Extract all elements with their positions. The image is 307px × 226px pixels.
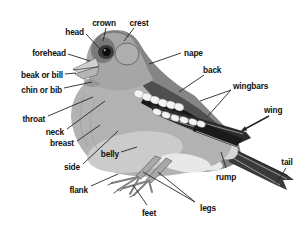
ear-covert-panel [115,43,139,65]
leader-line-nape [149,53,181,64]
bird-illustration [71,30,294,197]
part-label-flank: flank [69,185,88,195]
claw [130,195,134,197]
eye-glint [104,49,106,51]
part-label-chin-or-bib: chin or bib [21,85,62,95]
part-label-beak-or-bill: beak or bill [21,70,63,80]
part-label-nape: nape [184,48,203,58]
claw [114,190,118,193]
part-label-wing: wing [263,105,282,115]
part-label-feet: feet [142,208,157,218]
part-label-belly: belly [101,149,120,159]
part-label-throat: throat [22,114,45,124]
leader-line-flank [91,174,118,186]
part-label-neck: neck [46,127,65,137]
part-label-back: back [203,65,222,75]
bird-eye [102,48,110,56]
arrowhead-wing [241,126,247,131]
part-label-rump: rump [216,172,236,182]
part-label-side: side [64,162,81,172]
part-label-tail: tail [281,157,292,167]
part-label-breast: breast [50,138,74,148]
part-label-head: head [65,27,84,37]
part-label-forehead: forehead [32,48,66,58]
leader-line-legs [158,172,195,202]
part-label-wingbars: wingbars [232,81,269,91]
leader-line-back [179,75,204,92]
bird-anatomy-svg: headcrowncrestforeheadnapebeak or billba… [0,0,307,226]
claw [108,183,112,185]
part-label-crest: crest [129,18,148,28]
leader-line-wing [243,116,269,130]
part-label-legs: legs [200,203,217,213]
part-label-crown: crown [92,18,116,28]
bird-anatomy-figure: headcrowncrestforeheadnapebeak or billba… [0,0,307,226]
leader-line-beak-or-bill [65,73,76,74]
bird-beak [73,58,100,87]
